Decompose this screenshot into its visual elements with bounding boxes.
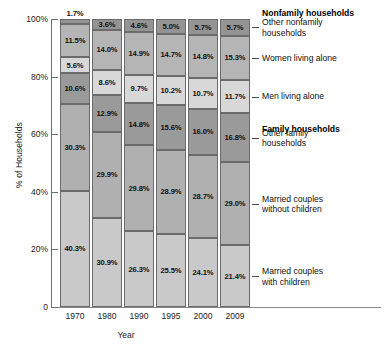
y-axis-tick xyxy=(51,19,58,20)
segment[interactable]: 8.6% xyxy=(92,70,122,95)
segment-value-label: 14.7% xyxy=(160,50,181,59)
x-axis-tick-label-2009: 2009 xyxy=(226,311,245,321)
legend-callout-label: Other family households xyxy=(262,128,308,149)
x-axis-tick-label-1970: 1970 xyxy=(66,311,85,321)
segment[interactable]: 12.9% xyxy=(92,95,122,132)
legend-callout-tick xyxy=(252,58,259,59)
segment-value-label: 3.6% xyxy=(99,20,116,29)
segment[interactable]: 10.7% xyxy=(188,78,218,109)
segment-value-label: 11.5% xyxy=(65,36,86,45)
legend-callout-tick xyxy=(252,27,259,28)
bar-2000[interactable]: 24.1%28.7%16.0%10.7%14.8%5.7% xyxy=(188,19,218,307)
segment-value-label: 5.7% xyxy=(195,23,212,32)
segment[interactable]: 5.6% xyxy=(60,57,90,73)
y-axis-tick-label: 40% xyxy=(31,187,48,197)
segment[interactable]: 14.9% xyxy=(124,32,154,75)
legend-callout-label: Men living alone xyxy=(262,91,324,101)
segment-value-label: 25.5% xyxy=(160,266,181,275)
x-axis-tick-label-1980: 1980 xyxy=(98,311,117,321)
y-axis-tick-label: 60% xyxy=(31,129,48,139)
legend-callout-tick xyxy=(252,276,259,277)
x-axis-tick-label-1995: 1995 xyxy=(162,311,181,321)
segment[interactable]: 40.3% xyxy=(60,191,90,307)
segment[interactable]: 11.5% xyxy=(60,24,90,57)
segment[interactable]: 24.1% xyxy=(188,238,218,307)
segment[interactable]: 16.8% xyxy=(220,113,250,161)
segment[interactable]: 29.9% xyxy=(92,132,122,218)
segment-value-label: 14.8% xyxy=(128,120,149,129)
segment[interactable]: 28.7% xyxy=(188,155,218,238)
segment[interactable]: 25.5% xyxy=(156,234,186,307)
segment[interactable]: 1.7% xyxy=(60,19,90,24)
segment[interactable]: 5.7% xyxy=(188,19,218,35)
segment-value-label: 26.3% xyxy=(128,265,149,274)
segment-value-label: 5.6% xyxy=(67,61,84,70)
segment[interactable]: 15.3% xyxy=(220,36,250,80)
segment-value-label: 10.2% xyxy=(160,86,181,95)
segment-value-label: 4.6% xyxy=(131,21,148,30)
segment-value-label: 30.9% xyxy=(96,258,117,267)
x-axis-line xyxy=(51,307,381,308)
segment[interactable]: 4.6% xyxy=(124,19,154,32)
bar-2009[interactable]: 21.4%29.0%16.8%11.7%15.3%5.7% xyxy=(220,19,250,307)
segment-value-label: 16.0% xyxy=(192,127,213,136)
segment-value-label: 29.9% xyxy=(96,170,117,179)
y-axis-tick xyxy=(51,192,58,193)
segment-value-label: 15.3% xyxy=(224,53,245,62)
segment[interactable]: 14.7% xyxy=(156,34,186,76)
segment[interactable]: 10.6% xyxy=(60,73,90,104)
y-axis-tick xyxy=(51,134,58,135)
segment-value-label: 5.7% xyxy=(227,23,244,32)
bar-1970[interactable]: 40.3%30.3%10.6%5.6%11.5%1.7% xyxy=(60,19,90,307)
segment[interactable]: 16.0% xyxy=(188,109,218,155)
segment-value-label: 15.6% xyxy=(160,123,181,132)
segment[interactable]: 29.8% xyxy=(124,145,154,231)
segment-value-label: 16.8% xyxy=(224,133,245,142)
segment-value-label: 10.6% xyxy=(64,84,85,93)
segment-value-label: 14.0% xyxy=(96,45,117,54)
bar-1990[interactable]: 26.3%29.8%14.8%9.7%14.9%4.6% xyxy=(124,19,154,307)
legend-callout-tick xyxy=(252,97,259,98)
legend-callout-label: Married couples without children xyxy=(262,194,323,215)
bar-1995[interactable]: 25.5%28.9%15.6%10.2%14.7%5.0% xyxy=(156,19,186,307)
segment[interactable]: 14.8% xyxy=(188,35,218,78)
segment-value-label: 12.9% xyxy=(96,109,117,118)
segment[interactable]: 9.7% xyxy=(124,75,154,103)
segment[interactable]: 29.0% xyxy=(220,162,250,246)
segment[interactable]: 11.7% xyxy=(220,80,250,114)
y-axis-tick xyxy=(51,77,58,78)
legend-callout-label: Other nonfamily households xyxy=(262,17,323,38)
x-axis-tick-label-1990: 1990 xyxy=(130,311,149,321)
segment-value-label: 29.0% xyxy=(224,199,245,208)
segment[interactable]: 14.8% xyxy=(124,103,154,146)
y-axis-tick-label: 80% xyxy=(31,72,48,82)
y-axis-tick-label: 20% xyxy=(31,244,48,254)
segment-value-label: 28.9% xyxy=(160,187,181,196)
legend-callout-tick xyxy=(252,138,259,139)
segment[interactable]: 14.0% xyxy=(92,30,122,70)
segment-value-label: 1.7% xyxy=(67,9,84,18)
segment[interactable]: 3.6% xyxy=(92,19,122,29)
stacked-bar-chart: % of Households Year 020%40%60%80%100% 1… xyxy=(0,0,384,352)
segment[interactable]: 28.9% xyxy=(156,150,186,233)
segment[interactable]: 5.7% xyxy=(220,19,250,35)
legend-callout-label: Women living alone xyxy=(262,53,337,63)
y-axis-tick-label: 0 xyxy=(43,302,48,312)
x-axis-tick-label-2000: 2000 xyxy=(194,311,213,321)
segment[interactable]: 30.3% xyxy=(60,104,90,191)
segment-value-label: 30.3% xyxy=(64,143,85,152)
segment[interactable]: 30.9% xyxy=(92,218,122,307)
segment-value-label: 9.7% xyxy=(131,84,148,93)
segment[interactable]: 10.2% xyxy=(156,76,186,105)
segment[interactable]: 5.0% xyxy=(156,19,186,33)
segment-value-label: 29.8% xyxy=(128,184,149,193)
segment[interactable]: 26.3% xyxy=(124,231,154,307)
plot-area: 40.3%30.3%10.6%5.6%11.5%1.7%30.9%29.9%12… xyxy=(59,19,251,307)
segment[interactable]: 21.4% xyxy=(220,245,250,307)
segment-value-label: 14.9% xyxy=(128,49,149,58)
x-axis-title: Year xyxy=(0,330,252,340)
segment-value-label: 8.6% xyxy=(99,78,116,87)
segment[interactable]: 15.6% xyxy=(156,105,186,150)
bar-1980[interactable]: 30.9%29.9%12.9%8.6%14.0%3.6% xyxy=(92,19,122,307)
y-axis-tick xyxy=(51,249,58,250)
